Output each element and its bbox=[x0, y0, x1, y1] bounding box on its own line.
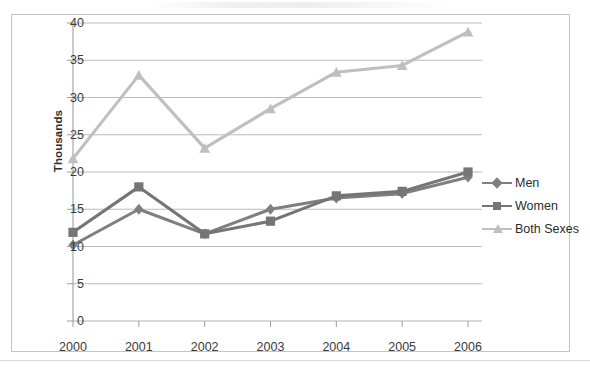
legend-label-men: Men bbox=[512, 176, 539, 190]
series-line bbox=[73, 32, 468, 159]
x-axis-tick-label: 2003 bbox=[257, 340, 285, 354]
legend-label-both-sexes: Both Sexes bbox=[512, 222, 579, 236]
y-axis-tick-label: 40 bbox=[62, 16, 84, 30]
y-axis-tick-label: 15 bbox=[62, 202, 84, 216]
data-point-marker bbox=[332, 191, 341, 200]
legend-item-both-sexes[interactable]: Both Sexes bbox=[482, 217, 578, 240]
y-axis-tick-label: 35 bbox=[62, 53, 84, 67]
series-men bbox=[68, 172, 472, 251]
chart-frame: Thousands 0510152025303540 2000200120022… bbox=[11, 14, 570, 352]
legend-swatch-men bbox=[482, 177, 512, 189]
scan-artifact bbox=[150, 2, 450, 8]
legend-item-men[interactable]: Men bbox=[482, 171, 578, 194]
x-axis-tick-label: 2005 bbox=[388, 340, 416, 354]
y-axis-tick-labels: 0510152025303540 bbox=[58, 15, 84, 353]
data-point-marker bbox=[200, 229, 209, 238]
y-axis-tick-label: 20 bbox=[62, 165, 84, 179]
legend-label-women: Women bbox=[512, 199, 558, 213]
x-axis-tick-label: 2002 bbox=[191, 340, 219, 354]
x-axis-tick-label: 2004 bbox=[322, 340, 350, 354]
series-both-sexes bbox=[68, 27, 474, 163]
data-point-marker bbox=[134, 204, 143, 215]
legend-item-women[interactable]: Women bbox=[482, 194, 578, 217]
data-point-marker bbox=[266, 217, 275, 226]
legend-swatch-women bbox=[482, 200, 512, 212]
y-axis-tick-label: 25 bbox=[62, 128, 84, 142]
y-axis-tick-label: 5 bbox=[62, 277, 84, 291]
y-axis-tick-label: 0 bbox=[62, 314, 84, 328]
x-axis-tick-label: 2001 bbox=[125, 340, 153, 354]
x-axis-tick-label: 2006 bbox=[454, 340, 482, 354]
chart-container: Thousands 0510152025303540 2000200120022… bbox=[0, 0, 590, 368]
x-axis-tick-label: 2000 bbox=[59, 340, 87, 354]
chart-legend: Men Women Both Sexes bbox=[482, 171, 578, 240]
data-point-marker bbox=[133, 70, 144, 80]
legend-swatch-both-sexes bbox=[482, 223, 512, 235]
data-point-marker bbox=[398, 187, 407, 196]
data-point-marker bbox=[463, 27, 474, 37]
data-point-marker bbox=[266, 204, 275, 215]
series-women bbox=[68, 167, 472, 238]
data-point-marker bbox=[134, 182, 143, 191]
data-point-marker bbox=[463, 167, 472, 176]
page-rule bbox=[0, 360, 590, 361]
y-axis-tick-label: 30 bbox=[62, 91, 84, 105]
y-axis-tick-label: 10 bbox=[62, 240, 84, 254]
